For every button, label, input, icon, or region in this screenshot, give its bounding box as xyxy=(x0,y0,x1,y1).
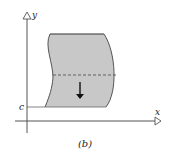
x-axis-label: x xyxy=(155,107,160,117)
c-label: c xyxy=(19,102,24,112)
y-axis-arrow-icon xyxy=(23,12,31,19)
diagram-canvas: y x c (b) xyxy=(0,0,171,160)
y-axis-label: y xyxy=(31,10,38,20)
figure-caption: (b) xyxy=(78,138,92,149)
x-axis-arrow-icon xyxy=(155,117,161,125)
